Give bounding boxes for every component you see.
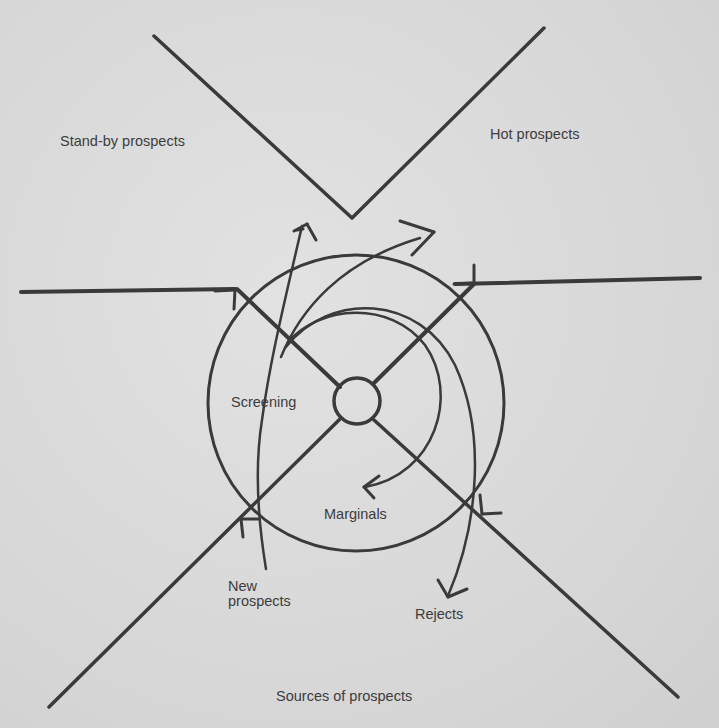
diagonal-upper-right — [374, 284, 474, 383]
label-screening: Screening — [231, 394, 296, 411]
center-circle — [334, 378, 380, 424]
diagonal-lower-right — [374, 420, 678, 697]
label-marginals: Marginals — [324, 506, 387, 523]
diagram-drawing — [0, 0, 719, 728]
intersection-arrow-lower-right — [480, 495, 501, 514]
hot-standby-divider-v — [154, 28, 544, 218]
intersection-arrow-left — [215, 290, 235, 309]
diagonal-lower-left — [49, 419, 340, 707]
left-horizontal-line — [21, 289, 235, 292]
rejects-flow-line — [285, 308, 475, 596]
intersection-arrow-lower-left — [241, 519, 258, 537]
right-horizontal-line — [455, 278, 700, 284]
prospect-flow-diagram: Stand-by prospects Hot prospects Screeni… — [0, 0, 719, 728]
label-hot-prospects: Hot prospects — [490, 126, 579, 143]
label-rejects: Rejects — [415, 606, 463, 623]
intersection-arrow-right — [454, 265, 474, 284]
label-new-prospects-line2: prospects — [228, 593, 291, 610]
label-standby-prospects: Stand-by prospects — [60, 133, 185, 150]
screening-arrow-up-left — [294, 224, 316, 240]
marginals-arrowhead — [364, 476, 379, 498]
label-sources-of-prospects: Sources of prospects — [276, 688, 412, 705]
